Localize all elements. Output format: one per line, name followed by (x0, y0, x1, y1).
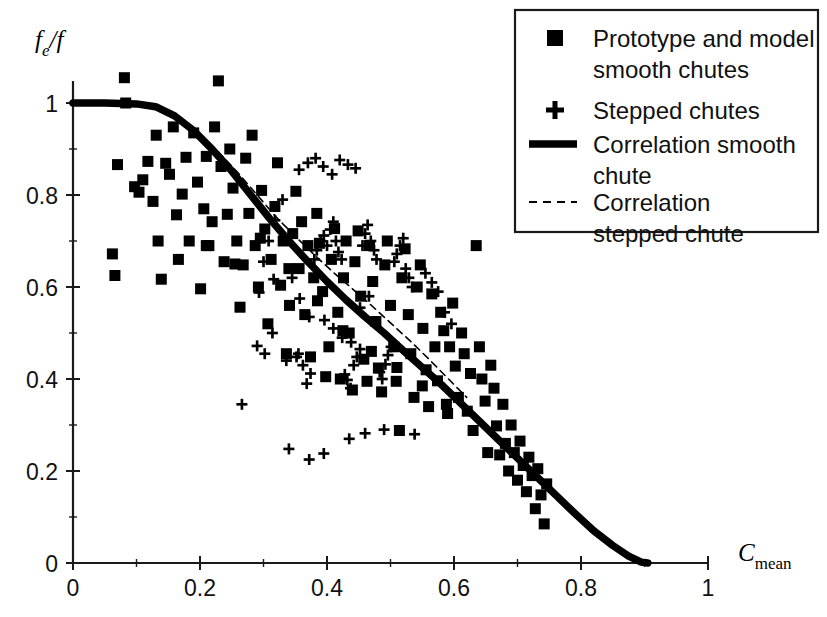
legend-item-label-line2: smooth chutes (593, 56, 749, 83)
plus-marker-vertical (341, 332, 344, 343)
square-marker (494, 449, 505, 460)
plus-marker-vertical (431, 277, 434, 288)
square-marker (512, 475, 523, 486)
square-marker (181, 152, 192, 163)
square-marker (326, 254, 337, 265)
plus-marker-vertical (298, 293, 301, 304)
plus-marker-vertical (359, 302, 362, 313)
plus-marker-vertical (393, 256, 396, 267)
plus-marker-vertical (354, 163, 357, 174)
square-marker (107, 248, 118, 259)
plus-marker-vertical (332, 216, 335, 227)
square-marker (453, 392, 464, 403)
square-marker (429, 341, 440, 352)
square-marker (305, 351, 316, 362)
plus-marker-vertical (359, 344, 362, 355)
square-marker (164, 169, 175, 180)
square-marker (240, 153, 251, 164)
square-marker (192, 177, 203, 188)
x-tick-label: 0.6 (438, 575, 470, 601)
y-tick-label: 0 (45, 551, 58, 577)
square-marker (287, 228, 298, 239)
square-marker (153, 236, 164, 247)
plus-marker-vertical (408, 272, 411, 283)
square-marker (391, 362, 402, 373)
square-marker (385, 300, 396, 311)
plus-marker-vertical (399, 240, 402, 251)
plus-marker-vertical (326, 240, 329, 251)
square-marker (432, 375, 443, 386)
legend-box: Prototype and modelsmooth chutesStepped … (515, 10, 818, 247)
plus-marker-vertical (297, 348, 300, 359)
square-marker (275, 280, 286, 291)
square-marker (308, 272, 319, 283)
square-marker (476, 374, 487, 385)
legend-item-label: Correlation smooth (593, 131, 796, 158)
plus-marker-vertical (281, 194, 284, 205)
plus-marker-vertical (352, 360, 355, 371)
square-marker (201, 240, 212, 251)
square-marker (120, 98, 131, 109)
square-marker (523, 452, 534, 463)
square-marker (532, 463, 543, 474)
plus-marker-vertical (285, 355, 288, 366)
plus-marker-vertical (332, 323, 335, 334)
plus-marker-vertical (271, 328, 274, 339)
square-marker (228, 183, 239, 194)
plus-marker-vertical (350, 337, 353, 348)
square-marker (229, 259, 240, 270)
scatter-plot-canvas: 00.20.40.60.8100.20.40.60.81fe/fCmean Pr… (0, 0, 827, 617)
square-marker (224, 144, 235, 155)
square-marker (216, 161, 227, 172)
plus-marker-vertical (256, 340, 259, 351)
square-marker (312, 295, 323, 306)
plus-marker-vertical (381, 374, 384, 385)
plus-marker-vertical (308, 454, 311, 465)
square-marker (376, 386, 387, 397)
plus-marker-vertical (413, 429, 416, 440)
plus-marker-vertical (361, 240, 364, 251)
square-marker (471, 240, 482, 251)
square-marker (332, 307, 343, 318)
square-marker (137, 174, 148, 185)
plus-marker-vertical (262, 256, 265, 267)
plus-marker-vertical (258, 287, 261, 298)
y-tick-label: 0.6 (26, 275, 58, 301)
plus-marker-vertical (329, 224, 332, 235)
legend-item-label-line2: stepped chute (593, 220, 744, 247)
chart-figure: 00.20.40.60.8100.20.40.60.81fe/fCmean Pr… (0, 0, 827, 617)
square-marker (294, 263, 305, 274)
plus-marker-vertical (323, 315, 326, 326)
plus-marker-vertical (305, 378, 308, 389)
square-marker (367, 276, 378, 287)
square-marker (311, 208, 322, 219)
square-marker (485, 360, 496, 371)
x-tick-label: 0.2 (184, 575, 216, 601)
square-marker (506, 420, 517, 431)
square-marker (444, 341, 455, 352)
x-tick-label: 1 (702, 575, 715, 601)
square-marker (468, 425, 479, 436)
square-marker (370, 316, 381, 327)
plus-marker-vertical (437, 286, 440, 297)
square-marker (184, 236, 195, 247)
square-marker (403, 309, 414, 320)
square-marker (362, 376, 373, 387)
square-marker (296, 216, 307, 227)
square-marker (482, 447, 493, 458)
square-marker (151, 130, 162, 141)
square-marker (338, 272, 349, 283)
plus-marker-vertical (370, 236, 373, 247)
plus-marker-vertical (364, 228, 367, 239)
square-marker (442, 408, 453, 419)
square-marker (222, 209, 233, 220)
plus-marker-vertical (383, 424, 386, 435)
x-axis-title-base: C (738, 539, 755, 566)
y-tick-label: 0.2 (26, 459, 58, 485)
legend-square-icon (547, 30, 563, 46)
plus-marker-vertical (348, 433, 351, 444)
plus-marker-vertical (390, 341, 393, 352)
square-marker (198, 203, 209, 214)
plus-marker-vertical (291, 272, 294, 283)
legend-item-label: Correlation (593, 189, 710, 216)
